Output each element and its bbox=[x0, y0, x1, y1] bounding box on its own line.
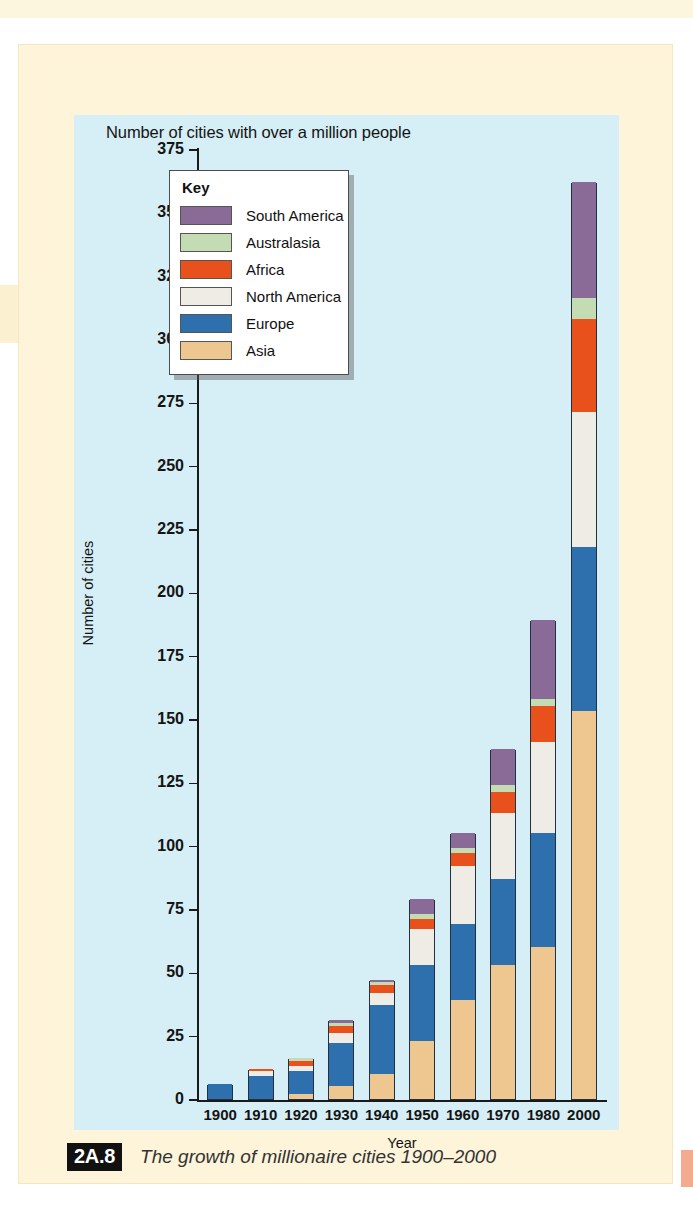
y-tick-label-125: 125 bbox=[157, 773, 184, 791]
figure-caption: 2A.8 The growth of millionaire cities 19… bbox=[67, 1143, 496, 1171]
bar-1970 bbox=[490, 750, 516, 1100]
legend-label: North America bbox=[246, 288, 341, 305]
legend-swatch-icon bbox=[180, 206, 232, 225]
bar-segment-1930-australasia bbox=[329, 1023, 353, 1026]
y-axis-title: Number of cities bbox=[80, 541, 96, 646]
y-tick-label-25: 25 bbox=[166, 1027, 184, 1045]
bar-segment-1960-europe bbox=[451, 924, 475, 1000]
figure-panel: Number of cities with over a million peo… bbox=[18, 44, 673, 1184]
y-tick-50 bbox=[189, 973, 198, 975]
legend-item-asia: Asia bbox=[180, 337, 338, 364]
bar-segment-1980-asia bbox=[531, 947, 555, 1099]
y-tick-label-150: 150 bbox=[157, 710, 184, 728]
y-tick-0 bbox=[189, 1099, 198, 1101]
bar-segment-2000-north-america bbox=[572, 412, 596, 546]
bar-segment-1910-europe bbox=[249, 1076, 273, 1099]
legend-swatch-icon bbox=[180, 341, 232, 360]
y-tick-75 bbox=[189, 909, 198, 911]
bar-segment-1940-asia bbox=[370, 1074, 394, 1099]
bar-segment-1910-north-america bbox=[249, 1071, 273, 1076]
bar-segment-1970-africa bbox=[491, 792, 515, 812]
bar-segment-1920-north-america bbox=[289, 1066, 313, 1071]
legend-swatch-icon bbox=[180, 287, 232, 306]
bar-1920 bbox=[288, 1059, 314, 1100]
y-tick-label-275: 275 bbox=[157, 393, 184, 411]
legend-item-north-america: North America bbox=[180, 283, 338, 310]
x-tick-label-1900: 1900 bbox=[200, 1106, 240, 1123]
bar-segment-1980-australasia bbox=[531, 699, 555, 707]
y-tick-label-50: 50 bbox=[166, 963, 184, 981]
x-tick-label-1970: 1970 bbox=[483, 1106, 523, 1123]
bar-segment-1930-north-america bbox=[329, 1033, 353, 1043]
legend-item-australasia: Australasia bbox=[180, 229, 338, 256]
bar-segment-1930-europe bbox=[329, 1043, 353, 1086]
bar-segment-1950-europe bbox=[410, 965, 434, 1041]
legend-label: Africa bbox=[246, 261, 284, 278]
x-axis-line bbox=[197, 1100, 607, 1102]
bar-segment-1980-north-america bbox=[531, 742, 555, 833]
legend-label: South America bbox=[246, 207, 344, 224]
chart-legend: Key South AmericaAustralasiaAfricaNorth … bbox=[169, 170, 349, 375]
legend-label: Australasia bbox=[246, 234, 320, 251]
bar-segment-1930-asia bbox=[329, 1086, 353, 1099]
bar-segment-1950-north-america bbox=[410, 929, 434, 964]
y-tick-label-225: 225 bbox=[157, 520, 184, 538]
x-tick-label-1960: 1960 bbox=[442, 1106, 482, 1123]
y-tick-150 bbox=[189, 719, 198, 721]
bar-segment-1920-europe bbox=[289, 1071, 313, 1094]
bar-segment-2000-south-america bbox=[572, 182, 596, 299]
y-tick-125 bbox=[189, 783, 198, 785]
y-tick-250 bbox=[189, 466, 198, 468]
y-tick-label-375: 375 bbox=[157, 140, 184, 158]
bar-1940 bbox=[369, 981, 395, 1100]
bar-segment-1960-australasia bbox=[451, 848, 475, 853]
legend-swatch-icon bbox=[180, 314, 232, 333]
bar-segment-2000-asia bbox=[572, 711, 596, 1099]
bar-segment-1940-africa bbox=[370, 985, 394, 993]
chart-area: Number of cities with over a million peo… bbox=[74, 115, 619, 1130]
y-tick-375 bbox=[189, 149, 198, 151]
bar-segment-1940-australasia bbox=[370, 982, 394, 985]
bar-segment-1960-north-america bbox=[451, 866, 475, 924]
x-tick-label-1910: 1910 bbox=[240, 1106, 280, 1123]
bar-segment-1950-asia bbox=[410, 1041, 434, 1099]
bar-segment-1960-africa bbox=[451, 853, 475, 866]
bar-segment-2000-africa bbox=[572, 319, 596, 413]
bar-segment-2000-europe bbox=[572, 547, 596, 712]
y-tick-175 bbox=[189, 656, 198, 658]
bar-segment-1970-south-america bbox=[491, 749, 515, 784]
bar-segment-2000-australasia bbox=[572, 298, 596, 318]
y-tick-100 bbox=[189, 846, 198, 848]
bar-segment-1920-australasia bbox=[289, 1058, 313, 1061]
legend-swatch-icon bbox=[180, 260, 232, 279]
bar-segment-1960-south-america bbox=[451, 833, 475, 848]
y-tick-200 bbox=[189, 593, 198, 595]
bar-segment-1940-north-america bbox=[370, 993, 394, 1006]
bar-1910 bbox=[248, 1070, 274, 1100]
figure-number-badge: 2A.8 bbox=[67, 1143, 122, 1171]
page-top-margin bbox=[0, 0, 693, 18]
y-tick-label-200: 200 bbox=[157, 583, 184, 601]
bar-segment-1970-north-america bbox=[491, 813, 515, 879]
x-tick-label-1940: 1940 bbox=[362, 1106, 402, 1123]
bar-segment-1900-europe bbox=[208, 1084, 232, 1099]
bar-segment-1910-africa bbox=[249, 1069, 273, 1072]
bar-1930 bbox=[328, 1021, 354, 1100]
bar-segment-1970-australasia bbox=[491, 785, 515, 793]
page-bottom-margin bbox=[0, 1187, 693, 1211]
legend-item-south-america: South America bbox=[180, 202, 338, 229]
legend-title: Key bbox=[182, 179, 338, 196]
x-tick-label-2000: 2000 bbox=[564, 1106, 604, 1123]
y-tick-label-250: 250 bbox=[157, 457, 184, 475]
bar-segment-1950-south-america bbox=[410, 899, 434, 914]
y-tick-225 bbox=[189, 529, 198, 531]
x-tick-label-1980: 1980 bbox=[523, 1106, 563, 1123]
figure-caption-text: The growth of millionaire cities 1900–20… bbox=[140, 1146, 496, 1168]
page-left-tab bbox=[0, 285, 18, 343]
bar-segment-1930-africa bbox=[329, 1026, 353, 1034]
bar-segment-1970-europe bbox=[491, 879, 515, 965]
bar-segment-1950-africa bbox=[410, 919, 434, 929]
x-tick-label-1930: 1930 bbox=[321, 1106, 361, 1123]
bar-segment-1980-south-america bbox=[531, 620, 555, 699]
y-tick-275 bbox=[189, 403, 198, 405]
